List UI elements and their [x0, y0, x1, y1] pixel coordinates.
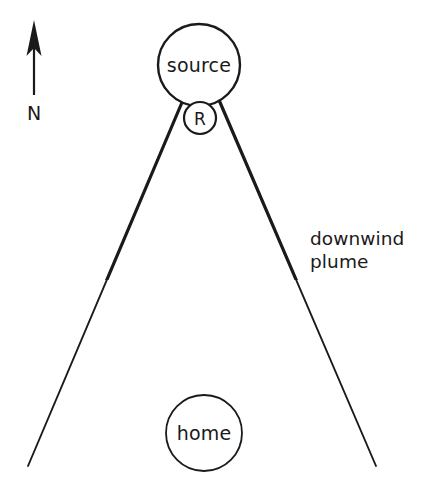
compass-direction-label: N: [27, 102, 41, 124]
source-node-label: source: [167, 54, 231, 76]
plume-annotation-line1: downwind: [310, 228, 404, 249]
receptor-node-label: R: [194, 109, 206, 129]
plume-dispersion-diagram: N source R home downwind plume: [0, 0, 428, 491]
home-node-label: home: [177, 422, 232, 444]
plume-annotation-line2: plume: [310, 251, 369, 272]
